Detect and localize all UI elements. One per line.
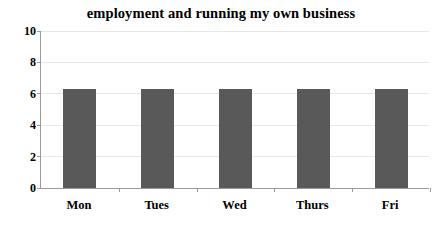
y-axis-label: 8: [4, 56, 36, 68]
y-axis-label: 4: [4, 119, 36, 131]
y-axis-label: 10: [4, 25, 36, 37]
bar: [141, 89, 174, 188]
x-axis-label: Thurs: [273, 198, 351, 212]
x-axis-label: Mon: [40, 198, 118, 212]
x-axis-label: Tues: [118, 198, 196, 212]
x-tick: [430, 188, 431, 192]
y-axis-label: 6: [4, 88, 36, 100]
y-axis: 1086420: [0, 31, 36, 188]
x-axis: MonTuesWedThursFri: [40, 198, 429, 224]
bar: [219, 89, 252, 188]
bars-group: [41, 31, 429, 188]
bar: [63, 89, 96, 188]
bar: [375, 89, 408, 188]
y-axis-label: 0: [4, 182, 36, 194]
x-axis-label: Wed: [196, 198, 274, 212]
chart-title: employment and running my own business: [0, 5, 442, 22]
x-tick: [119, 188, 120, 192]
x-axis-label: Fri: [351, 198, 429, 212]
x-tick: [274, 188, 275, 192]
plot-area: [40, 31, 429, 188]
x-tick: [352, 188, 353, 192]
bar-chart: employment and running my own business 1…: [0, 0, 442, 237]
y-axis-label: 2: [4, 151, 36, 163]
x-tick: [197, 188, 198, 192]
bar: [297, 89, 330, 188]
